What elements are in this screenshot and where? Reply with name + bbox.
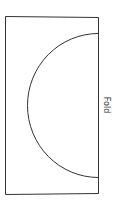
- bottom-edge: [6, 194, 99, 195]
- rectangle-outline: [6, 17, 99, 195]
- fold-label: Fold: [101, 95, 111, 115]
- top-edge: [6, 17, 99, 18]
- semicircle-arc: [28, 34, 99, 178]
